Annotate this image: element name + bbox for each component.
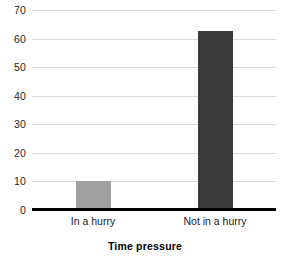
gridline: [32, 10, 276, 11]
y-axis-tick-label: 30: [0, 119, 26, 130]
gridline: [32, 181, 276, 182]
gridline: [32, 39, 276, 40]
gridline: [32, 124, 276, 125]
bar-chart: 706050403020100 In a hurryNot in a hurry…: [0, 0, 290, 261]
x-axis-line: [32, 208, 276, 211]
x-axis-title: Time pressure: [0, 240, 290, 252]
y-axis-tick-label: 0: [0, 205, 26, 216]
gridline: [32, 96, 276, 97]
y-axis-tick-label: 20: [0, 148, 26, 159]
y-axis-tick-label: 50: [0, 62, 26, 73]
y-axis-tick-label: 60: [0, 34, 26, 45]
x-axis-category-label: Not in a hurry: [155, 216, 275, 228]
y-axis-tick-label: 40: [0, 91, 26, 102]
gridline: [32, 67, 276, 68]
plot-area: [32, 10, 276, 210]
y-axis-tick-label: 70: [0, 5, 26, 16]
bar: [76, 181, 111, 210]
x-axis-category-label: In a hurry: [33, 216, 153, 228]
gridline: [32, 153, 276, 154]
y-axis-tick-label: 10: [0, 176, 26, 187]
bar: [198, 31, 233, 210]
